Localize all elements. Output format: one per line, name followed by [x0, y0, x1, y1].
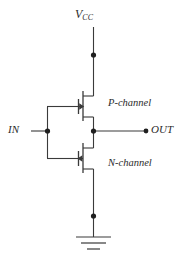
output-junction-dot — [91, 128, 96, 133]
output-terminal-dot — [144, 129, 149, 134]
vcc-junction-dot — [91, 52, 96, 57]
input-junction-dot — [45, 128, 50, 133]
vcc-label: VCC — [75, 8, 93, 22]
circuit-diagram-canvas: VCC IN OUT P-channel N-channel — [0, 0, 188, 269]
nmos-label: N-channel — [108, 158, 152, 169]
pmos-label: P-channel — [108, 98, 151, 109]
input-label: IN — [8, 124, 19, 135]
ground-junction-dot — [91, 213, 96, 218]
vcc-label-subscript: CC — [82, 13, 93, 22]
output-label: OUT — [151, 124, 173, 135]
